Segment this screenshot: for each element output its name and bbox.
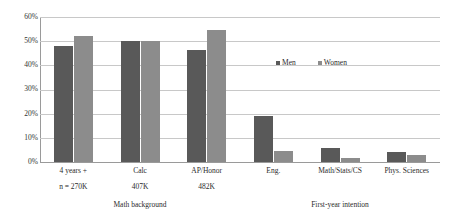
bar-men-math-stats-cs xyxy=(321,148,340,163)
x-sublabel-phys-sciences xyxy=(373,182,440,192)
x-sublabel-4-years: n = 270K xyxy=(40,182,107,192)
bar-group-ap-honor xyxy=(173,17,240,162)
legend: Men Women xyxy=(276,58,347,67)
bar-men-ap-honor xyxy=(187,50,206,162)
legend-label-women: Women xyxy=(324,58,347,67)
bar-group-4-years xyxy=(40,17,107,162)
legend-swatch-men-icon xyxy=(276,61,280,65)
y-axis-labels: 60% 50% 40% 30% 20% 10% 0% xyxy=(0,0,38,218)
gridline-0 xyxy=(40,162,440,163)
bar-group-calc xyxy=(107,17,174,162)
grouped-bar-chart: 60% 50% 40% 30% 20% 10% 0% xyxy=(0,0,449,218)
legend-swatch-women-icon xyxy=(318,61,322,65)
x-label-calc: Calc xyxy=(107,166,174,176)
section-title-first-year-intention: First-year intention xyxy=(240,200,440,210)
x-axis-sample-sizes: n = 270K 407K 482K xyxy=(40,182,440,192)
bar-women-calc xyxy=(141,41,160,162)
bar-group-phys-sciences xyxy=(373,17,440,162)
y-tick-60: 60% xyxy=(4,13,38,21)
bar-women-phys-sciences xyxy=(407,155,426,162)
y-tick-50: 50% xyxy=(4,37,38,45)
x-axis-category-labels: 4 years + Calc AP/Honor Eng. Math/Stats/… xyxy=(40,166,440,176)
y-tick-0: 0% xyxy=(4,158,38,166)
y-tick-10: 10% xyxy=(4,134,38,142)
bar-women-eng xyxy=(274,151,293,162)
bar-men-4-years xyxy=(54,46,73,162)
legend-item-women: Women xyxy=(318,58,347,67)
bar-men-phys-sciences xyxy=(387,152,406,162)
x-label-phys-sciences: Phys. Sciences xyxy=(373,166,440,176)
legend-label-men: Men xyxy=(282,58,296,67)
x-sublabel-math-stats-cs xyxy=(307,182,374,192)
bar-women-ap-honor xyxy=(207,30,226,162)
x-sublabel-ap-honor: 482K xyxy=(173,182,240,192)
bar-women-math-stats-cs xyxy=(341,158,360,162)
bar-group-eng xyxy=(240,17,307,162)
x-label-eng: Eng. xyxy=(240,166,307,176)
bar-groups xyxy=(40,17,440,162)
bar-women-4-years xyxy=(74,36,93,162)
section-title-math-background: Math background xyxy=(40,200,240,210)
x-sublabel-calc: 407K xyxy=(107,182,174,192)
y-tick-30: 30% xyxy=(4,85,38,93)
bar-men-calc xyxy=(121,41,140,162)
x-label-4-years: 4 years + xyxy=(40,166,107,176)
x-label-math-stats-cs: Math/Stats/CS xyxy=(307,166,374,176)
bar-group-math-stats-cs xyxy=(307,17,374,162)
bar-men-eng xyxy=(254,116,273,162)
legend-item-men: Men xyxy=(276,58,296,67)
x-sublabel-eng xyxy=(240,182,307,192)
y-tick-40: 40% xyxy=(4,61,38,69)
x-label-ap-honor: AP/Honor xyxy=(173,166,240,176)
y-tick-20: 20% xyxy=(4,110,38,118)
